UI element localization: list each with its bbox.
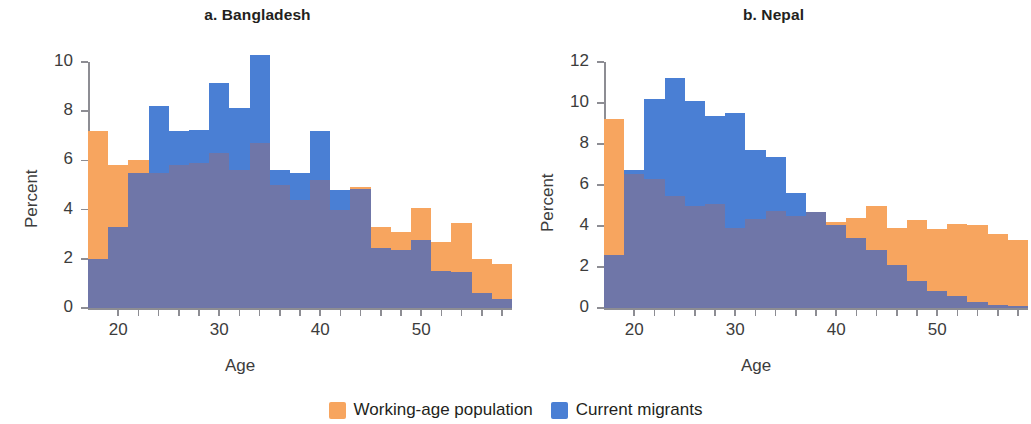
histogram-bar-overlap (149, 173, 169, 308)
histogram-bar-overlap (290, 200, 310, 308)
y-axis-tick (597, 143, 604, 145)
figure-age-distribution: a. Bangladesh Percent Age 02468102030405… (0, 0, 1031, 424)
x-axis-tick (755, 310, 757, 316)
y-axis-tick-label: 6 (549, 174, 589, 194)
histogram-bar-overlap (310, 180, 330, 308)
y-axis-tick (81, 258, 88, 260)
x-axis-tick (138, 310, 140, 316)
histogram-bar-overlap (431, 271, 451, 308)
x-axis-tick (117, 310, 119, 316)
y-axis-tick (81, 61, 88, 63)
histogram-bar-working-age-population (1008, 240, 1028, 308)
histogram-bar-overlap (1008, 306, 1028, 308)
x-axis-tick (714, 310, 716, 316)
histogram-bar-overlap (604, 255, 624, 308)
x-axis-tick (896, 310, 898, 316)
histogram-bar-overlap (350, 189, 370, 308)
y-axis-tick-label: 10 (33, 51, 73, 71)
x-axis-tick-label: 20 (604, 320, 664, 340)
histogram-bar-overlap (169, 165, 189, 308)
x-axis-label-bangladesh: Age (180, 356, 300, 376)
x-axis-tick (1017, 310, 1019, 316)
x-axis-tick (218, 310, 220, 316)
x-axis-tick (815, 310, 817, 316)
histogram-bar-overlap (685, 206, 705, 309)
histogram-bar-overlap (88, 259, 108, 308)
chart-panel-nepal: b. Nepal Percent Age 02468101220304050 (516, 0, 1031, 390)
histogram-bar-overlap (947, 296, 967, 308)
histogram-bar-overlap (846, 238, 866, 308)
y-axis-tick (81, 160, 88, 162)
x-axis-tick (259, 310, 261, 316)
histogram-bar-overlap (725, 228, 745, 308)
x-axis-tick (441, 310, 443, 316)
histogram-bar-overlap (745, 219, 765, 308)
chart-panel-bangladesh: a. Bangladesh Percent Age 02468102030405… (0, 0, 515, 390)
histogram-bar-overlap (472, 293, 492, 308)
y-axis-tick-label: 8 (549, 133, 589, 153)
x-axis-tick (360, 310, 362, 316)
legend-swatch-icon (329, 402, 346, 419)
x-axis-tick-label: 30 (705, 320, 765, 340)
x-axis-tick (795, 310, 797, 316)
histogram-bar-overlap (866, 250, 886, 308)
x-axis-tick (239, 310, 241, 316)
legend-label: Current migrants (576, 400, 703, 420)
x-axis-tick (876, 310, 878, 316)
x-axis-tick (279, 310, 281, 316)
histogram-bar-overlap (128, 173, 148, 308)
histogram-bar-overlap (330, 210, 350, 308)
x-axis-tick-label: 50 (907, 320, 967, 340)
panel-title-bangladesh: a. Bangladesh (0, 6, 515, 24)
y-axis-tick (81, 110, 88, 112)
x-axis-tick (674, 310, 676, 316)
plot-area-bangladesh: 024681020304050 (88, 62, 512, 308)
x-axis-tick (734, 310, 736, 316)
x-axis-tick-label: 50 (391, 320, 451, 340)
y-axis-tick-label: 8 (33, 100, 73, 120)
x-axis-tick (400, 310, 402, 316)
x-axis-tick-label: 40 (290, 320, 350, 340)
y-axis-tick (597, 225, 604, 227)
histogram-bar-overlap (108, 227, 128, 308)
histogram-bar-overlap (189, 163, 209, 308)
histogram-bar-overlap (250, 143, 270, 308)
x-axis-tick (481, 310, 483, 316)
x-axis-tick-label: 30 (189, 320, 249, 340)
x-axis-tick (775, 310, 777, 316)
x-axis-tick (633, 310, 635, 316)
histogram-bar-overlap (270, 185, 290, 308)
x-axis-tick (380, 310, 382, 316)
legend-item: Current migrants (551, 400, 703, 420)
x-axis-tick (654, 310, 656, 316)
y-axis-tick (597, 307, 604, 309)
y-axis-tick (597, 102, 604, 104)
histogram-bar-overlap (887, 265, 907, 308)
x-axis-tick (856, 310, 858, 316)
histogram-bar-overlap (705, 204, 725, 308)
x-axis-tick-label: 20 (88, 320, 148, 340)
histogram-bar-overlap (229, 170, 249, 308)
legend-label: Working-age population (354, 400, 533, 420)
legend-item: Working-age population (329, 400, 533, 420)
histogram-bar-overlap (371, 248, 391, 308)
histogram-bar-overlap (766, 211, 786, 308)
y-axis-tick (597, 266, 604, 268)
y-axis-tick-label: 4 (33, 199, 73, 219)
histogram-bar-working-age-population (988, 234, 1008, 308)
histogram-bar-overlap (624, 174, 644, 308)
y-axis-tick-label: 0 (549, 297, 589, 317)
histogram-bar-overlap (907, 281, 927, 308)
x-axis-tick (957, 310, 959, 316)
y-axis-tick-label: 10 (549, 92, 589, 112)
x-axis-tick (997, 310, 999, 316)
x-axis-tick (501, 310, 503, 316)
x-axis-tick (461, 310, 463, 316)
y-axis-tick-label: 12 (549, 51, 589, 71)
y-axis-tick (597, 61, 604, 63)
histogram-bar-overlap (967, 302, 987, 308)
legend-swatch-icon (551, 402, 568, 419)
histogram-bar-overlap (988, 305, 1008, 308)
histogram-bar-overlap (411, 240, 431, 308)
x-axis-label-nepal: Age (696, 356, 816, 376)
